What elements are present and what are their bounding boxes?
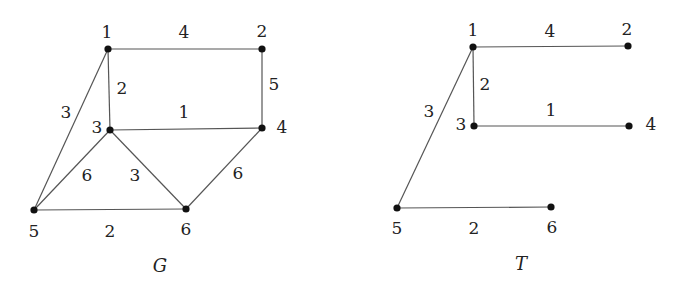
vertex-dot-icon [470, 122, 477, 129]
vertex-dot-icon [624, 42, 631, 49]
graph-caption: T [515, 253, 529, 274]
edge-weight-label: 2 [117, 78, 128, 98]
edge-5-6 [397, 207, 551, 208]
edge-weight-label: 1 [546, 100, 557, 120]
vertex-dot-icon [469, 43, 476, 50]
edge-4-6 [186, 128, 262, 209]
edge-weight-label: 3 [61, 102, 72, 122]
edge-weight-label: 3 [130, 165, 141, 185]
edge-weight-label: 4 [545, 21, 556, 41]
vertex-label: 5 [392, 218, 403, 238]
edge-weight-label: 5 [269, 74, 280, 94]
vertex-label: 4 [277, 117, 288, 137]
edge-weight-label: 2 [469, 218, 480, 238]
vertex-dot-icon [625, 122, 632, 129]
graph-diagram-canvas: 452136362123456G 42132123456T [0, 0, 675, 289]
edge-1-3 [108, 49, 110, 130]
edge-weight-label: 2 [105, 221, 116, 241]
edge-5-6 [34, 209, 186, 210]
edge-1-2 [473, 46, 628, 47]
vertex-label: 6 [547, 217, 558, 237]
edge-weight-label: 3 [424, 101, 435, 121]
edge-weight-label: 2 [480, 74, 491, 94]
edge-3-5 [34, 130, 110, 210]
edge-weight-label: 6 [82, 165, 93, 185]
vertex-label: 1 [468, 20, 479, 40]
vertex-dot-icon [30, 206, 37, 213]
graph-g: 452136362123456G [29, 21, 288, 277]
vertex-dot-icon [393, 204, 400, 211]
vertex-label: 6 [181, 219, 192, 239]
spanning-tree-t: 42132123456T [392, 19, 657, 275]
vertex-label: 2 [257, 21, 268, 41]
vertex-dot-icon [182, 205, 189, 212]
edge-3-4 [110, 128, 262, 130]
vertex-label: 2 [622, 19, 633, 39]
edge-weight-label: 6 [233, 163, 244, 183]
vertex-label: 3 [456, 114, 467, 134]
edge-3-6 [110, 130, 186, 209]
vertex-label: 4 [646, 114, 657, 134]
edge-1-3 [473, 47, 474, 126]
vertex-dot-icon [258, 45, 265, 52]
vertex-dot-icon [104, 45, 111, 52]
vertex-label: 3 [92, 117, 103, 137]
graph-caption: G [153, 255, 167, 276]
vertex-dot-icon [106, 126, 113, 133]
edge-weight-label: 1 [179, 102, 190, 122]
vertex-label: 5 [29, 221, 40, 241]
vertex-dot-icon [547, 203, 554, 210]
vertex-label: 1 [102, 22, 113, 42]
vertex-dot-icon [258, 124, 265, 131]
edge-weight-label: 4 [179, 22, 190, 42]
